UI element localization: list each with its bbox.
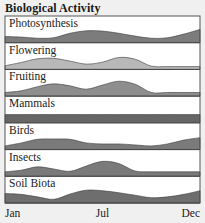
- x-tick-label-dec: Dec: [181, 207, 200, 219]
- panel-label-fruiting: Fruiting: [9, 70, 46, 83]
- area-mammals: [5, 115, 200, 123]
- panel-label-mammals: Mammals: [9, 97, 56, 109]
- panel-label-photosynthesis: Photosynthesis: [9, 17, 79, 30]
- panel-label-soil-biota: Soil Biota: [9, 177, 55, 189]
- chart-svg: PhotosynthesisFloweringFruitingMammalsBi…: [0, 0, 205, 223]
- panel-label-insects: Insects: [9, 151, 41, 163]
- x-tick-label-jul: Jul: [96, 207, 109, 219]
- x-tick-label-jan: Jan: [5, 207, 21, 219]
- panel-label-flowering: Flowering: [9, 44, 57, 57]
- panel-label-birds: Birds: [9, 124, 34, 136]
